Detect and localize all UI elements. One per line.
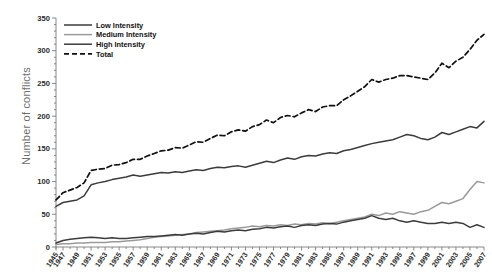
chart-legend: Low IntensityMedium IntensityHigh Intens… — [64, 21, 157, 59]
x-tick-label: 1985 — [317, 251, 333, 269]
x-tick-label: 1957 — [121, 251, 137, 269]
legend-label-medium-intensity: Medium Intensity — [96, 30, 157, 39]
x-tick-label: 1989 — [346, 251, 362, 269]
x-tick-label: 2005 — [458, 251, 474, 269]
y-tick-label: 250 — [37, 79, 50, 88]
x-tick-label: 1963 — [163, 251, 179, 269]
x-tick-label: 1991 — [360, 251, 376, 269]
x-tick-label: 1973 — [233, 251, 249, 269]
line-chart-plot: 050100150200250300350 194519471949195119… — [0, 0, 492, 278]
x-tick-label: 1995 — [388, 251, 404, 269]
x-tick-label: 1993 — [374, 251, 390, 269]
series-group — [56, 34, 484, 244]
x-tick-label: 1983 — [303, 251, 319, 269]
y-tick-label: 100 — [37, 177, 50, 186]
x-tick-label: 2003 — [444, 251, 460, 269]
x-tick-label: 1949 — [65, 251, 81, 269]
series-line-low-intensity — [56, 121, 484, 206]
x-tick-label: 1969 — [205, 251, 221, 269]
y-axis: 050100150200250300350 — [37, 14, 56, 252]
x-tick-label: 2007 — [472, 251, 488, 269]
x-tick-label: 1999 — [416, 251, 432, 269]
x-tick-label: 1987 — [332, 251, 348, 269]
series-line-medium-intensity — [56, 182, 484, 245]
x-tick-label: 1955 — [107, 251, 123, 269]
y-tick-label: 150 — [37, 144, 50, 153]
legend-label-low-intensity: Low Intensity — [96, 21, 144, 30]
x-tick-label: 1953 — [93, 251, 109, 269]
x-tick-label: 1959 — [135, 251, 151, 269]
x-axis: 1945194719491951195319551957195919611963… — [44, 247, 488, 269]
x-tick-label: 1951 — [79, 251, 95, 269]
legend-label-high-intensity: High Intensity — [96, 40, 146, 49]
x-tick-label: 1971 — [219, 251, 235, 269]
x-tick-label: 1967 — [191, 251, 207, 269]
x-tick-label: 2001 — [430, 251, 446, 269]
x-tick-label: 1997 — [402, 251, 418, 269]
series-line-high-intensity — [56, 216, 484, 243]
chart-figure: Number of conflicts 05010015020025030035… — [0, 0, 492, 278]
y-tick-label: 0 — [46, 243, 50, 252]
y-tick-label: 300 — [37, 46, 50, 55]
x-tick-label: 1979 — [275, 251, 291, 269]
y-tick-label: 50 — [42, 210, 50, 219]
x-tick-label: 1975 — [247, 251, 263, 269]
x-tick-label: 1977 — [261, 251, 277, 269]
legend-label-total: Total — [96, 50, 113, 59]
x-tick-label: 1965 — [177, 251, 193, 269]
y-tick-label: 350 — [37, 14, 50, 23]
series-line-total — [56, 34, 484, 200]
x-tick-label: 1981 — [289, 251, 305, 269]
y-tick-label: 200 — [37, 112, 50, 121]
x-tick-label: 1961 — [149, 251, 165, 269]
